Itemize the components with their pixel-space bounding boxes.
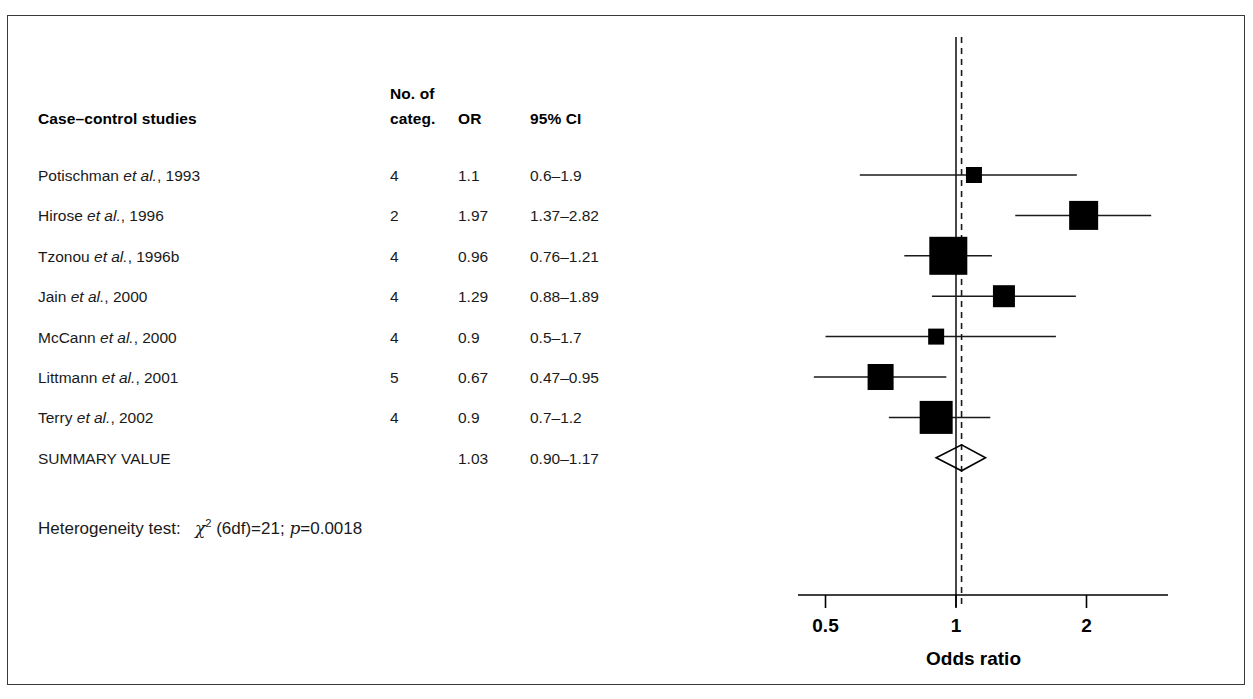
table-cell-categories: 4 bbox=[390, 409, 434, 427]
table-row-study: Potischman et al., 1993 bbox=[38, 167, 200, 185]
table-cell-categories: 4 bbox=[390, 248, 434, 266]
chi-symbol: χ bbox=[195, 518, 205, 538]
p-symbol: p bbox=[289, 518, 300, 538]
p-value: =0.0018 bbox=[300, 519, 362, 538]
table-cell-categories: 4 bbox=[390, 329, 434, 347]
study-citation: et al., 2000 bbox=[66, 288, 147, 305]
table-row-study: McCann et al., 2000 bbox=[38, 329, 177, 347]
table-cell-categories: 4 bbox=[390, 288, 434, 306]
x-axis-tick-label: 1 bbox=[926, 615, 986, 637]
table-cell-or: 0.9 bbox=[458, 329, 518, 347]
x-axis-tick-label: 0.5 bbox=[796, 615, 856, 637]
study-citation: et al., 1996b bbox=[90, 248, 180, 265]
table-cell-or: 1.97 bbox=[458, 207, 518, 225]
study-citation: et al., 2002 bbox=[72, 409, 153, 426]
column-header-study: Case–control studies bbox=[38, 110, 197, 128]
summary-row-label: SUMMARY VALUE bbox=[38, 450, 171, 468]
table-cell-ci: 1.37–2.82 bbox=[530, 207, 660, 225]
table-cell-ci: 0.6–1.9 bbox=[530, 167, 660, 185]
table-cell-categories: 4 bbox=[390, 167, 434, 185]
table-cell-or: 0.96 bbox=[458, 248, 518, 266]
table-row-study: Terry et al., 2002 bbox=[38, 409, 153, 427]
heterogeneity-statistic: (6df)=21; bbox=[211, 519, 284, 538]
table-row-study: Jain et al., 2000 bbox=[38, 288, 147, 306]
heterogeneity-test: Heterogeneity test: χ2 (6df)=21; p=0.001… bbox=[38, 517, 362, 539]
study-citation: et al., 2001 bbox=[97, 369, 178, 386]
table-row-study: Tzonou et al., 1996b bbox=[38, 248, 179, 266]
column-header-categories-line2: categ. bbox=[390, 110, 435, 128]
table-cell-or: 1.03 bbox=[458, 450, 518, 468]
study-author: Hirose bbox=[38, 207, 83, 224]
table-cell-or: 0.9 bbox=[458, 409, 518, 427]
table-cell-or: 0.67 bbox=[458, 369, 518, 387]
study-citation: et al., 1993 bbox=[119, 167, 200, 184]
study-author: Tzonou bbox=[38, 248, 90, 265]
table-cell-ci: 0.7–1.2 bbox=[530, 409, 660, 427]
study-author: Terry bbox=[38, 409, 72, 426]
table-row-study: Hirose et al., 1996 bbox=[38, 207, 164, 225]
table-cell-ci: 0.5–1.7 bbox=[530, 329, 660, 347]
study-author: Littmann bbox=[38, 369, 97, 386]
study-author: McCann bbox=[38, 329, 96, 346]
x-axis-tick-label: 2 bbox=[1057, 615, 1117, 637]
column-header-categories-line1: No. of bbox=[390, 85, 435, 103]
table-cell-ci: 0.76–1.21 bbox=[530, 248, 660, 266]
column-header-ci: 95% CI bbox=[530, 110, 581, 128]
table-cell-categories: 2 bbox=[390, 207, 434, 225]
heterogeneity-label: Heterogeneity test: bbox=[38, 519, 181, 538]
study-author: Potischman bbox=[38, 167, 119, 184]
x-axis-label: Odds ratio bbox=[926, 648, 996, 670]
study-citation: et al., 1996 bbox=[83, 207, 164, 224]
study-citation: et al., 2000 bbox=[96, 329, 177, 346]
forest-plot-figure: Case–control studies No. of categ. OR 95… bbox=[0, 0, 1253, 699]
table-cell-ci: 0.47–0.95 bbox=[530, 369, 660, 387]
study-author: Jain bbox=[38, 288, 66, 305]
table-cell-ci: 0.90–1.17 bbox=[530, 450, 660, 468]
table-cell-or: 1.29 bbox=[458, 288, 518, 306]
column-header-or: OR bbox=[458, 110, 481, 128]
table-cell-categories: 5 bbox=[390, 369, 434, 387]
table-cell-or: 1.1 bbox=[458, 167, 518, 185]
table-cell-ci: 0.88–1.89 bbox=[530, 288, 660, 306]
table-row-study: Littmann et al., 2001 bbox=[38, 369, 178, 387]
